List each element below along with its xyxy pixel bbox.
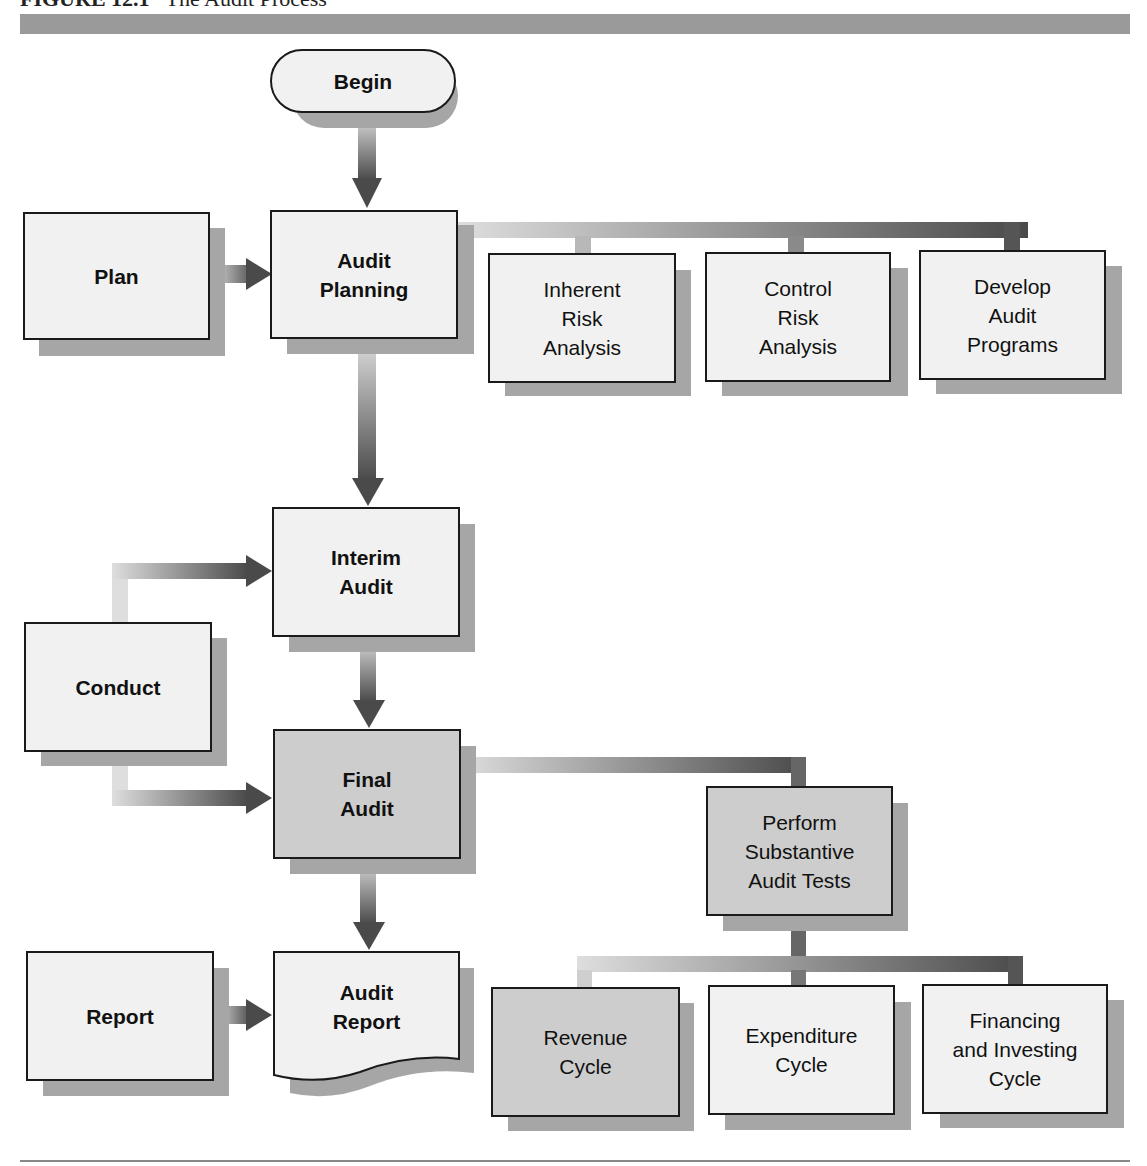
plan-label: Plan bbox=[94, 262, 138, 291]
arrow-begin-to-planning bbox=[352, 114, 382, 208]
report-box: Report bbox=[26, 951, 214, 1081]
expenditure-cycle-label: Expenditure Cycle bbox=[745, 1021, 857, 1079]
report-label: Report bbox=[86, 1002, 154, 1031]
arrow-conduct-to-interim bbox=[112, 555, 272, 625]
audit-report-document: Audit Report bbox=[274, 952, 459, 1062]
revenue-cycle-label: Revenue Cycle bbox=[543, 1023, 627, 1081]
control-risk-label: Control Risk Analysis bbox=[759, 274, 837, 361]
final-audit-label: Final Audit bbox=[340, 765, 394, 823]
begin-label: Begin bbox=[334, 67, 392, 96]
audit-planning-label: Audit Planning bbox=[320, 246, 409, 304]
develop-programs-label: Develop Audit Programs bbox=[967, 272, 1058, 359]
arrow-planning-to-interim bbox=[352, 338, 384, 506]
final-audit-box: Final Audit bbox=[273, 729, 461, 859]
audit-report-label: Audit Report bbox=[333, 978, 401, 1036]
substantive-tests-label: Perform Substantive Audit Tests bbox=[745, 808, 855, 895]
begin-terminator: Begin bbox=[270, 49, 456, 113]
interim-audit-label: Interim Audit bbox=[331, 543, 401, 601]
financing-cycle-label: Financing and Investing Cycle bbox=[953, 1006, 1078, 1093]
control-risk-box: Control Risk Analysis bbox=[705, 252, 891, 382]
revenue-cycle-box: Revenue Cycle bbox=[491, 987, 680, 1117]
inherent-risk-label: Inherent Risk Analysis bbox=[543, 275, 621, 362]
plan-box: Plan bbox=[23, 212, 210, 340]
arrow-final-to-substantive bbox=[460, 757, 806, 787]
bottom-rule bbox=[20, 1160, 1130, 1162]
financing-cycle-box: Financing and Investing Cycle bbox=[922, 984, 1108, 1114]
inherent-risk-box: Inherent Risk Analysis bbox=[488, 253, 676, 383]
conduct-box: Conduct bbox=[24, 622, 212, 752]
expenditure-cycle-box: Expenditure Cycle bbox=[708, 985, 895, 1115]
substantive-tests-box: Perform Substantive Audit Tests bbox=[706, 786, 893, 916]
interim-audit-box: Interim Audit bbox=[272, 507, 460, 637]
develop-programs-box: Develop Audit Programs bbox=[919, 250, 1106, 380]
audit-planning-box: Audit Planning bbox=[270, 210, 458, 339]
conduct-label: Conduct bbox=[75, 673, 160, 702]
